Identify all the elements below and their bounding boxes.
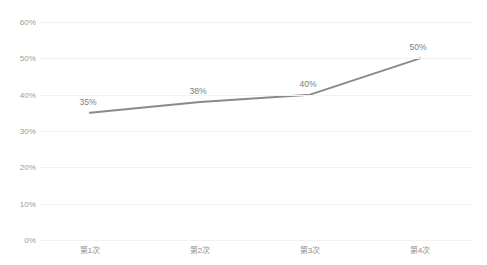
y-axis-tick-label: 20% xyxy=(20,163,36,172)
y-axis: 60%50%40%30%20%10%0% xyxy=(0,22,36,240)
gridline xyxy=(40,167,473,168)
x-axis-tick-label: 第4次 xyxy=(410,244,430,255)
y-axis-tick-label: 50% xyxy=(20,54,36,63)
x-axis-tick-label: 第1次 xyxy=(80,244,100,255)
x-axis-tick-label: 第3次 xyxy=(300,244,320,255)
y-axis-tick-label: 10% xyxy=(20,199,36,208)
series-polyline xyxy=(90,58,420,113)
y-axis-tick-label: 40% xyxy=(20,90,36,99)
gridline xyxy=(40,204,473,205)
gridline xyxy=(40,131,473,132)
gridline xyxy=(40,22,473,23)
x-axis: 第1次第2次第3次第4次 xyxy=(40,240,473,262)
plot-area: 35%38%40%50% xyxy=(40,22,473,240)
gridline xyxy=(40,95,473,96)
y-axis-tick-label: 60% xyxy=(20,18,36,27)
data-point-label: 35% xyxy=(79,97,96,107)
data-point-label: 38% xyxy=(189,86,206,96)
gridline xyxy=(40,58,473,59)
data-point-label: 50% xyxy=(409,42,426,52)
y-axis-tick-label: 0% xyxy=(24,236,36,245)
x-axis-tick-label: 第2次 xyxy=(190,244,210,255)
line-chart: 60%50%40%30%20%10%0% 35%38%40%50% 第1次第2次… xyxy=(0,0,487,265)
data-point-label: 40% xyxy=(299,79,316,89)
y-axis-tick-label: 30% xyxy=(20,127,36,136)
